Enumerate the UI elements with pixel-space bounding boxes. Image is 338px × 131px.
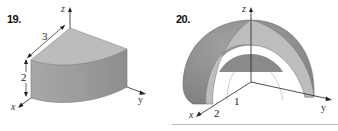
inner-radius-label: 1	[234, 95, 240, 107]
z-axis-label: z	[61, 3, 65, 14]
divider-line	[172, 124, 338, 125]
outer-radius-label: 2	[214, 107, 220, 119]
height-dimension-label: 2	[21, 72, 27, 83]
quarter-cylinder-diagram	[0, 0, 169, 131]
radius-dimension-label: 3	[42, 30, 48, 42]
hemispherical-shell-diagram	[169, 0, 338, 131]
x-axis-label: x	[189, 109, 193, 120]
x-axis-label: x	[11, 101, 15, 112]
y-axis-label: y	[321, 102, 326, 113]
y-axis-label: y	[138, 94, 143, 105]
z-axis-label: z	[242, 3, 246, 14]
figure-20: 20. z y x 1 2	[169, 0, 338, 131]
figure-19: 19. z y x 3 2	[0, 0, 169, 131]
